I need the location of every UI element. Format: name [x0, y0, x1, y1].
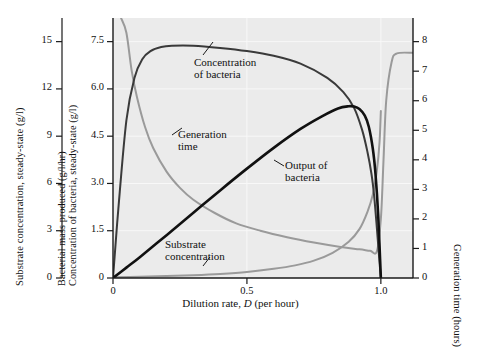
- ticklabel-x-0: 0: [93, 285, 133, 296]
- ticklabel-x-2: 1.0: [361, 285, 401, 296]
- annotation-line-2: time: [178, 140, 227, 152]
- ticklabel-bacteria-0: 0: [72, 271, 104, 282]
- annotation-line-1: Generation: [178, 128, 227, 140]
- ticklabel-x-1: 0.5: [227, 285, 267, 296]
- annotation-line-2: of bacteria: [194, 68, 256, 80]
- x-axis-title-prefix: Dilution rate,: [182, 297, 243, 309]
- x-axis-title: Dilution rate, D (per hour): [0, 297, 481, 309]
- annotation-line-1: Substrate: [165, 238, 225, 250]
- x-axis-title-suffix: (per hour): [252, 297, 299, 309]
- ticklabel-generation-1: 1: [422, 241, 438, 252]
- ticklabel-substrate-1: 3: [24, 223, 52, 234]
- annotation-line-1: Output of: [285, 159, 327, 171]
- ticklabel-bacteria-1: 1.5: [72, 223, 104, 234]
- ticklabel-substrate-2: 6: [24, 176, 52, 187]
- ticklabel-generation-8: 8: [422, 34, 438, 45]
- ticklabel-substrate-4: 12: [24, 81, 52, 92]
- ticklabel-bacteria-2: 3.0: [72, 176, 104, 187]
- ticklabel-substrate-5: 15: [24, 34, 52, 45]
- ticklabel-generation-0: 0: [422, 271, 438, 282]
- y-axis-title-bacterial-mass: Bacterial mass produced (g/l/hr): [56, 151, 67, 286]
- ticklabel-bacteria-5: 7.5: [72, 34, 104, 45]
- ticklabel-generation-6: 6: [422, 93, 438, 104]
- annotation-line-2: bacteria: [285, 171, 327, 183]
- y-axis-title-generation-time: Generation time (hours): [452, 244, 463, 347]
- annotation-substrate-concentration: Substrate concentration: [165, 238, 225, 263]
- ticklabel-generation-7: 7: [422, 64, 438, 75]
- ticklabel-substrate-3: 9: [24, 129, 52, 140]
- annotation-line-2: concentration: [165, 250, 225, 262]
- ticklabel-generation-4: 4: [422, 152, 438, 163]
- ticklabel-generation-3: 3: [422, 182, 438, 193]
- ticklabel-substrate-0: 0: [24, 271, 52, 282]
- plot-background: [113, 18, 413, 278]
- annotation-output-of-bacteria: Output of bacteria: [285, 159, 327, 184]
- x-axis-title-symbol: D: [244, 297, 252, 309]
- ticklabel-generation-2: 2: [422, 211, 438, 222]
- annotation-line-1: Concentration: [194, 56, 256, 68]
- annotation-generation-time: Generation time: [178, 128, 227, 153]
- ticklabel-generation-5: 5: [422, 123, 438, 134]
- ticklabel-bacteria-4: 6.0: [72, 81, 104, 92]
- ticklabel-bacteria-3: 4.5: [72, 129, 104, 140]
- annotation-concentration-of-bacteria: Concentration of bacteria: [194, 56, 256, 81]
